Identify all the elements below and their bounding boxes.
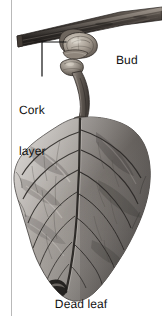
leaf-abscission-figure: Cork layer Bud Dead leaf [0,0,162,316]
petiole-group [72,71,90,123]
node-group [60,29,98,76]
cork-layer-label: Cork layer [19,77,46,185]
bud-label: Bud [116,54,138,68]
dead-leaf-caption: Dead leaf [0,298,162,312]
cork-layer-label-line1: Cork [19,104,46,118]
cork-layer-label-line2: layer [19,145,46,159]
branch-cut-end [17,35,23,47]
